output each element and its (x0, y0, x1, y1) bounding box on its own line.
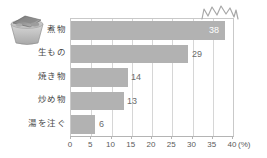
bar-value-1: 29 (192, 45, 202, 64)
bar-chart: 煮物 生もの 焼き物 炒め物 湯を注ぐ 38 29 14 13 (0, 0, 267, 158)
tick-mark-40 (232, 136, 233, 139)
category-label-4: 湯を注ぐ (28, 112, 66, 135)
tick-label-30: 30 (187, 140, 196, 149)
category-axis-labels: 煮物 生もの 焼き物 炒め物 湯を注ぐ (0, 18, 68, 135)
tick-label-40: 40 (228, 140, 237, 149)
bar-4 (71, 115, 95, 134)
bar-value-3: 13 (127, 92, 137, 111)
crown-graphic (200, 5, 242, 20)
category-label-0: 煮物 (47, 18, 66, 41)
tick-label-20: 20 (147, 140, 156, 149)
category-label-1: 生もの (38, 41, 66, 64)
bar-row-0: 38 (71, 19, 233, 42)
bar-value-4: 6 (99, 115, 104, 134)
tick-mark-5 (90, 136, 91, 139)
tick-mark-15 (131, 136, 132, 139)
bar-row-4: 6 (71, 113, 233, 136)
bar-2 (71, 68, 128, 87)
tick-label-5: 5 (88, 140, 92, 149)
tick-mark-30 (192, 136, 193, 139)
bar-0 (71, 21, 225, 40)
bar-row-3: 13 (71, 89, 233, 112)
bar-value-0: 38 (209, 21, 219, 40)
tick-label-35: 35 (207, 140, 216, 149)
category-label-2: 焼き物 (38, 65, 66, 88)
tick-label-10: 10 (106, 140, 115, 149)
tick-label-0: 0 (68, 140, 72, 149)
tick-mark-0 (70, 136, 71, 139)
x-axis-unit-label: (%) (238, 140, 250, 149)
tick-mark-10 (111, 136, 112, 139)
tick-mark-20 (151, 136, 152, 139)
bar-row-1: 29 (71, 42, 233, 65)
tick-label-25: 25 (167, 140, 176, 149)
category-label-3: 炒め物 (38, 88, 66, 111)
bar-1 (71, 45, 188, 64)
bar-3 (71, 92, 124, 111)
plot-area: 38 29 14 13 6 (70, 18, 234, 137)
bar-value-2: 14 (131, 68, 141, 87)
zigzag-crown-icon (200, 5, 242, 20)
bar-row-2: 14 (71, 66, 233, 89)
tick-mark-35 (212, 136, 213, 139)
tick-label-15: 15 (126, 140, 135, 149)
tick-mark-25 (171, 136, 172, 139)
x-axis: 0 5 10 15 20 25 30 35 40 (70, 136, 232, 154)
